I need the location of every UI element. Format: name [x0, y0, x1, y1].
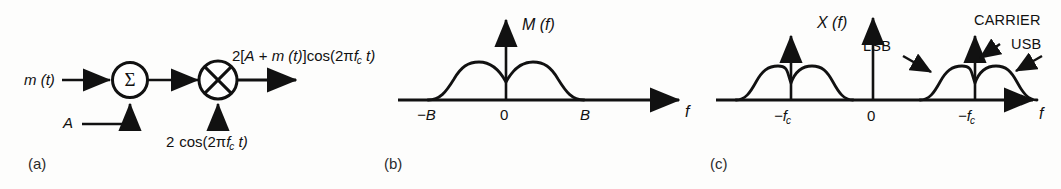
panel-c-modulated-spectrum: X (f) f −fc 0 −fc LSB CARRIER USB (c) — [708, 0, 1061, 189]
axis-label-f-c: f — [1039, 105, 1043, 123]
tick-label-minus-b: −B — [417, 106, 436, 123]
panel-b-baseband-spectrum: M (f) f −B 0 B (b) — [354, 0, 708, 189]
annotation-lsb: LSB — [863, 38, 891, 54]
input-line-a — [82, 104, 130, 124]
tick-label-minus-fc-right: −fc — [958, 107, 975, 126]
tick-label-zero-b: 0 — [500, 106, 508, 123]
panel-a-block-diagram: Σ m (t) A 2 cos(2πfc t) 2[A + m (t)]cos(… — [0, 0, 354, 189]
modulated-spectrum-graphic — [708, 0, 1061, 189]
axis-label-mf: M (f) — [522, 16, 555, 34]
label-carrier-input: 2 cos(2πfc t) — [166, 133, 248, 152]
tick-label-minus-fc-left: −fc — [774, 107, 791, 126]
panel-caption-a: (a) — [28, 155, 46, 172]
annotation-usb: USB — [1011, 36, 1041, 52]
panel-caption-b: (b) — [384, 155, 402, 172]
label-input-mt: m (t) — [24, 71, 55, 88]
annotation-carrier: CARRIER — [974, 12, 1041, 28]
spectrum-curve-positive — [920, 66, 1037, 100]
leader-arrow-usb — [1016, 56, 1042, 71]
panel-caption-c: (c) — [710, 155, 728, 172]
am-modulation-figure: Σ m (t) A 2 cos(2πfc t) 2[A + m (t)]cos(… — [0, 0, 1061, 189]
block-diagram-graphic: Σ — [0, 0, 354, 189]
label-dc-offset: A — [63, 114, 73, 131]
axis-label-f-b: f — [685, 103, 689, 121]
axis-label-xf: X (f) — [817, 14, 847, 32]
tick-label-zero-c: 0 — [867, 107, 875, 124]
leader-arrow-lsb — [903, 56, 931, 72]
leader-arrow-carrier — [980, 44, 1000, 58]
tick-label-b: B — [580, 106, 590, 123]
summer-sigma-label: Σ — [124, 69, 135, 90]
spectrum-curve-negative — [736, 66, 853, 100]
